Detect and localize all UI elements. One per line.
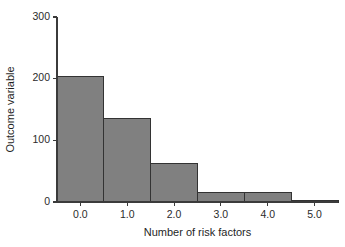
histogram-plot: 0100200300 0.01.02.03.04.05.0 Number of …	[0, 0, 345, 247]
x-tick-label: 4.0	[260, 208, 275, 220]
x-axis-title: Number of risk factors	[144, 226, 252, 238]
x-tick-label: 1.0	[120, 208, 135, 220]
y-axis-ticks: 0100200300	[32, 10, 57, 207]
chart-figure: 0100200300 0.01.02.03.04.05.0 Number of …	[0, 0, 345, 247]
y-axis-title: Outcome variable	[4, 66, 16, 152]
y-tick-label: 0	[44, 195, 50, 207]
x-tick-label: 0.0	[73, 208, 88, 220]
y-tick-label: 300	[32, 10, 50, 22]
x-tick-label: 2.0	[167, 208, 182, 220]
bars-group	[57, 77, 338, 202]
y-tick-label: 200	[32, 71, 50, 83]
bar-1.0	[104, 118, 151, 202]
bar-2.0	[151, 163, 198, 202]
x-tick-label: 3.0	[214, 208, 229, 220]
y-tick-label: 100	[32, 133, 50, 145]
x-tick-label: 5.0	[307, 208, 322, 220]
bar-4.0	[244, 192, 291, 202]
x-axis-ticks: 0.01.02.03.04.05.0	[73, 202, 322, 220]
bar-3.0	[198, 192, 245, 202]
bar-0.0	[57, 77, 104, 202]
